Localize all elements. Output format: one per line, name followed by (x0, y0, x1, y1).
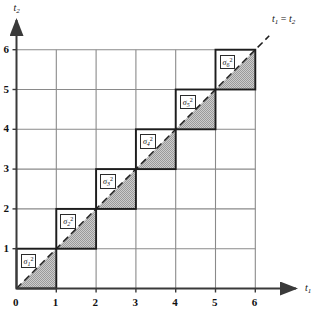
cell-label-6: σ62 (220, 55, 236, 70)
x-tick-label-6: 6 (252, 297, 258, 308)
diagonal-line-label: t1 = t2 (272, 14, 295, 26)
y-tick-label-1: 1 (4, 243, 10, 254)
x-tick-label-0: 0 (13, 297, 19, 308)
x-tick-label-1: 1 (53, 297, 59, 308)
cell-label-2: σ22 (60, 214, 76, 229)
diagram-svg (0, 0, 328, 313)
y-axis-label: t2 (14, 3, 20, 15)
cell-label-3: σ32 (100, 174, 116, 189)
y-tick-label-3: 3 (4, 163, 10, 174)
x-tick-label-2: 2 (93, 297, 99, 308)
y-tick-label-2: 2 (4, 203, 10, 214)
x-axis-label: t1 (305, 283, 311, 295)
cell-label-4: σ42 (140, 134, 156, 149)
y-tick-label-4: 4 (4, 123, 10, 134)
x-tick-label-4: 4 (172, 297, 178, 308)
y-tick-label-6: 6 (4, 44, 10, 55)
figure-canvas: 0123456123456t1t2t1 = t2σ12σ22σ32σ42σ52σ… (0, 0, 328, 313)
x-tick-label-5: 5 (212, 297, 218, 308)
y-tick-label-5: 5 (4, 84, 10, 95)
cell-label-1: σ12 (21, 254, 37, 269)
cell-label-5: σ52 (180, 95, 196, 110)
x-tick-label-3: 3 (132, 297, 138, 308)
